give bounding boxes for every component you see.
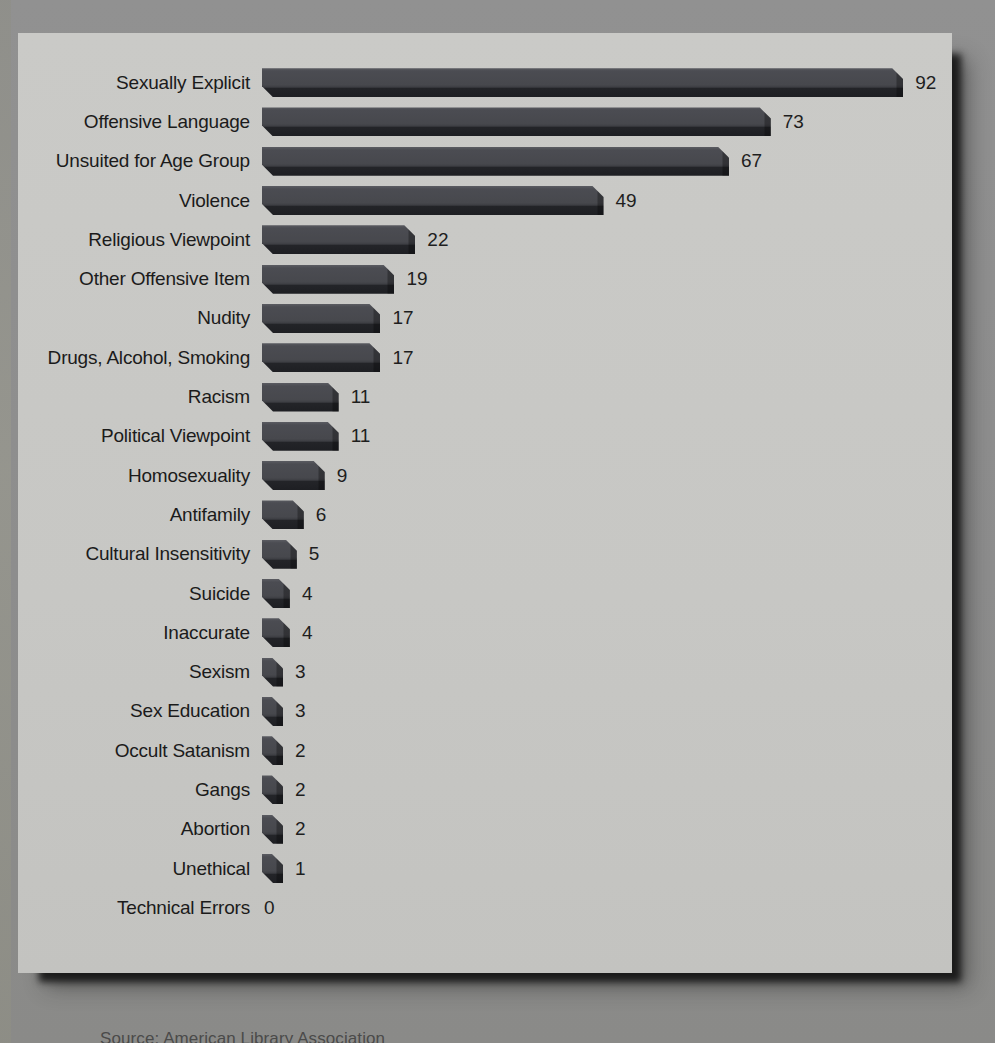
- bar: [262, 343, 380, 372]
- bar-area: 4: [262, 579, 952, 608]
- category-label: Sexually Explicit: [18, 72, 262, 94]
- bar-area: 9: [262, 461, 952, 490]
- category-label: Occult Satanism: [18, 740, 262, 762]
- bar-area: 4: [262, 618, 952, 647]
- chart-row: Technical Errors 0: [18, 888, 952, 927]
- bar-area: 5: [262, 540, 952, 569]
- category-label: Suicide: [18, 583, 262, 605]
- value-label: 3: [295, 661, 306, 683]
- value-label: 3: [295, 700, 306, 722]
- bar-area: 0: [262, 897, 952, 919]
- category-label: Other Offensive Item: [18, 268, 262, 290]
- bar-area: 11: [262, 383, 952, 412]
- chart-row: Nudity 17: [18, 299, 952, 338]
- bar: [262, 265, 394, 294]
- bar: [262, 147, 729, 176]
- bar-area: 3: [262, 697, 952, 726]
- bar-area: 22: [262, 225, 952, 254]
- source-note: Source: American Library Association: [100, 1029, 385, 1043]
- chart-row: Antifamily 6: [18, 495, 952, 534]
- category-label: Religious Viewpoint: [18, 229, 262, 251]
- scanned-page: Sexually Explicit 92 Offensive Language …: [0, 0, 995, 1043]
- category-label: Inaccurate: [18, 622, 262, 644]
- chart-row: Occult Satanism 2: [18, 731, 952, 770]
- bar-area: 17: [262, 343, 952, 372]
- value-label: 1: [295, 858, 306, 880]
- bar: [262, 815, 283, 844]
- category-label: Cultural Insensitivity: [18, 543, 262, 565]
- category-label: Drugs, Alcohol, Smoking: [18, 347, 262, 369]
- value-label: 19: [406, 268, 427, 290]
- bar-area: 49: [262, 186, 952, 215]
- chart-row: Religious Viewpoint 22: [18, 220, 952, 259]
- bar: [262, 854, 283, 883]
- bar: [262, 658, 283, 687]
- value-label: 22: [427, 229, 448, 251]
- chart-row: Unethical 1: [18, 849, 952, 888]
- chart-row: Homosexuality 9: [18, 456, 952, 495]
- bar: [262, 186, 604, 215]
- value-label: 49: [616, 190, 637, 212]
- bar-area: 19: [262, 265, 952, 294]
- value-label: 67: [741, 150, 762, 172]
- bar-area: 2: [262, 815, 952, 844]
- chart-panel: Sexually Explicit 92 Offensive Language …: [18, 33, 952, 973]
- value-label: 2: [295, 818, 306, 840]
- bar-area: 1: [262, 854, 952, 883]
- value-label: 92: [915, 72, 936, 94]
- bar-area: 67: [262, 147, 952, 176]
- value-label: 73: [783, 111, 804, 133]
- value-label: 11: [351, 386, 371, 408]
- value-label: 2: [295, 740, 306, 762]
- value-label: 4: [302, 583, 313, 605]
- category-label: Offensive Language: [18, 111, 262, 133]
- chart-row: Sex Education 3: [18, 692, 952, 731]
- chart-row: Inaccurate 4: [18, 613, 952, 652]
- chart-row: Drugs, Alcohol, Smoking 17: [18, 338, 952, 377]
- bar-area: 11: [262, 422, 952, 451]
- bar: [262, 540, 297, 569]
- value-label: 17: [392, 307, 413, 329]
- bar-chart: Sexually Explicit 92 Offensive Language …: [18, 63, 952, 928]
- category-label: Nudity: [18, 307, 262, 329]
- category-label: Racism: [18, 386, 262, 408]
- chart-row: Suicide 4: [18, 574, 952, 613]
- bar: [262, 500, 304, 529]
- page-edge-strip: [0, 0, 11, 1043]
- bar: [262, 775, 283, 804]
- chart-row: Unsuited for Age Group 67: [18, 142, 952, 181]
- bar-area: 3: [262, 658, 952, 687]
- bar: [262, 579, 290, 608]
- category-label: Unsuited for Age Group: [18, 150, 262, 172]
- value-label: 0: [264, 897, 275, 919]
- category-label: Homosexuality: [18, 465, 262, 487]
- chart-row: Other Offensive Item 19: [18, 259, 952, 298]
- bar-area: 6: [262, 500, 952, 529]
- bar: [262, 225, 415, 254]
- bar: [262, 697, 283, 726]
- category-label: Sex Education: [18, 700, 262, 722]
- category-label: Violence: [18, 190, 262, 212]
- bar-area: 73: [262, 107, 952, 136]
- bar: [262, 422, 339, 451]
- category-label: Antifamily: [18, 504, 262, 526]
- chart-row: Sexually Explicit 92: [18, 63, 952, 102]
- chart-row: Racism 11: [18, 377, 952, 416]
- value-label: 6: [316, 504, 327, 526]
- value-label: 2: [295, 779, 306, 801]
- bar-area: 2: [262, 775, 952, 804]
- chart-row: Cultural Insensitivity 5: [18, 535, 952, 574]
- bar-area: 2: [262, 736, 952, 765]
- bar: [262, 304, 380, 333]
- category-label: Unethical: [18, 858, 262, 880]
- category-label: Technical Errors: [18, 897, 262, 919]
- bar: [262, 736, 283, 765]
- chart-row: Gangs 2: [18, 770, 952, 809]
- category-label: Political Viewpoint: [18, 425, 262, 447]
- bar: [262, 618, 290, 647]
- chart-row: Abortion 2: [18, 810, 952, 849]
- bar-area: 17: [262, 304, 952, 333]
- chart-row: Sexism 3: [18, 652, 952, 691]
- value-label: 11: [351, 425, 371, 447]
- value-label: 5: [309, 543, 320, 565]
